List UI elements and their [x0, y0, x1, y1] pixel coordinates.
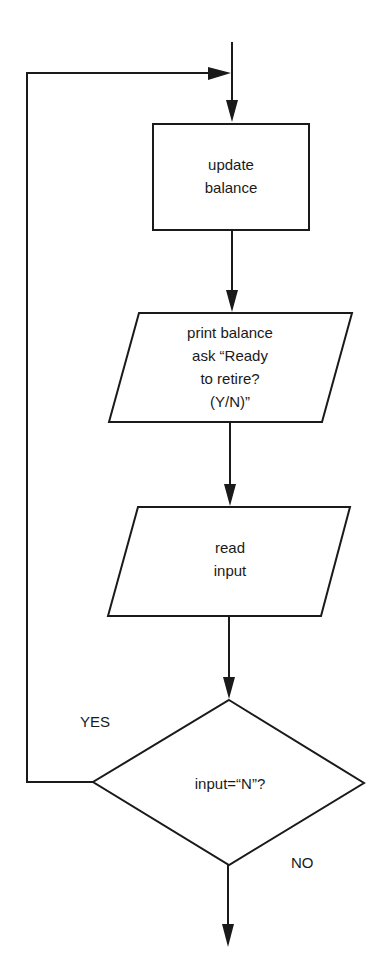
yes-branch-label: YES	[80, 710, 110, 733]
print-line-2: ask “Ready	[130, 344, 330, 367]
arrow-exit	[222, 924, 234, 947]
update-balance-label: update balance	[153, 153, 309, 199]
arrow-into-print	[226, 290, 238, 312]
decision-line-1: input=“N”?	[150, 772, 310, 795]
print-line-3: to retire?	[130, 367, 330, 390]
update-line-2: balance	[153, 176, 309, 199]
arrow-into-decision	[223, 677, 235, 699]
print-balance-label: print balance ask “Ready to retire? (Y/N…	[130, 321, 330, 413]
print-line-4: (Y/N)”	[130, 390, 330, 413]
update-line-1: update	[153, 153, 309, 176]
arrow-into-update	[226, 100, 238, 122]
flowchart-canvas	[0, 0, 382, 980]
read-line-1: read	[130, 536, 330, 559]
print-line-1: print balance	[130, 321, 330, 344]
arrow-into-read	[224, 484, 236, 506]
decision-label: input=“N”?	[150, 772, 310, 795]
no-branch-label: NO	[291, 851, 314, 874]
arrow-loop-merge	[208, 67, 231, 80]
read-input-label: read input	[130, 536, 330, 582]
read-line-2: input	[130, 559, 330, 582]
